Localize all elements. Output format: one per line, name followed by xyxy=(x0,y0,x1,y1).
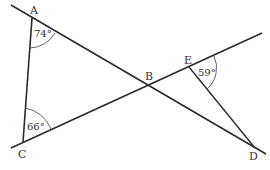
angle-label-E: 59° xyxy=(198,67,216,78)
segment-ED xyxy=(189,67,255,148)
point-label-D: D xyxy=(249,150,258,163)
angle-label-C: 66° xyxy=(27,121,45,132)
point-label-C: C xyxy=(18,148,26,161)
point-label-B: B xyxy=(145,70,153,83)
point-label-E: E xyxy=(184,54,192,67)
angle-label-A: 74° xyxy=(34,28,52,39)
point-label-A: A xyxy=(29,4,39,17)
geometry-diagram: A B C D E 74° 66° 59° xyxy=(0,0,270,170)
line-CBE xyxy=(11,33,262,148)
